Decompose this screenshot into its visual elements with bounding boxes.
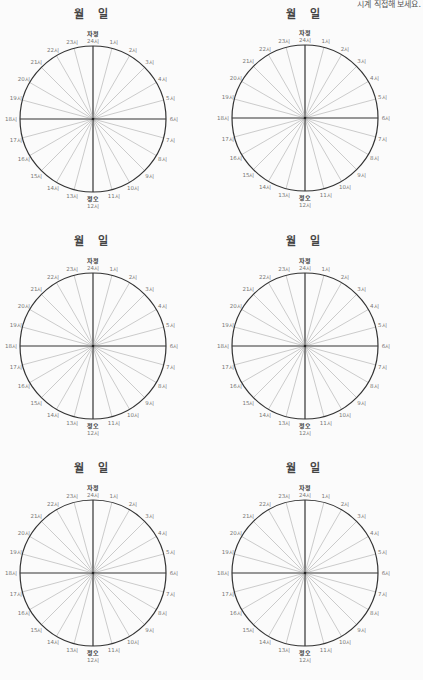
hour-spoke [286,346,305,417]
hour-spoke [242,118,305,155]
hour-label: 19시 [10,549,22,555]
hour-spoke [57,510,94,573]
hour-label: 10시 [339,184,351,190]
hour-label: 15시 [30,173,42,179]
hour-spoke [269,573,306,636]
hour-spoke [286,118,305,189]
hour-label: 10시 [339,639,351,645]
hour-spoke [305,346,376,365]
hour-spoke [305,346,357,398]
hour-spoke [22,346,93,365]
midnight-label: 자정 [299,257,311,265]
hour-label: 17시 [10,364,22,370]
hour-spoke [93,119,112,190]
hour-label: 2시 [129,274,138,280]
hour-label: 2시 [129,501,138,507]
hour-label: 1시 [321,493,330,499]
hour-spoke [269,118,306,181]
midnight-label: 자정 [87,257,99,265]
hour-spoke [93,119,164,138]
hour-spoke [305,573,324,644]
hour-label: 23시 [278,493,290,499]
hour-spoke [305,99,376,118]
hour-spoke [22,327,93,346]
hour-label: 8시 [158,156,167,162]
hour-spoke [93,573,164,592]
clock-dial-3: 월 일 24시1시2시3시4시5시6시7시8시9시10시11시12시13시14시… [0,227,212,453]
hour-spoke [22,554,93,573]
hour-label: 9시 [145,173,154,179]
hour-label: 7시 [166,364,175,370]
center-dot [304,117,307,120]
hour-spoke [93,294,145,346]
hour-spoke [269,55,306,118]
hour-spoke [305,66,357,118]
hour-label: 22시 [259,274,271,280]
hour-spoke [93,573,145,625]
hour-spoke [242,573,305,610]
hour-label: 10시 [339,412,351,418]
hour-spoke [30,573,93,610]
clock-dial-5: 월 일 24시1시2시3시4시5시6시7시8시9시10시11시12시13시14시… [0,454,212,680]
hour-label: 3시 [145,286,154,292]
hour-label: 19시 [222,94,234,100]
hour-label: 5시 [378,322,387,328]
hour-label: 12시 [299,430,311,436]
hour-spoke [30,537,93,574]
hour-label: 16시 [18,383,30,389]
hour-spoke [41,294,93,346]
hour-spoke [305,118,368,155]
hour-spoke [93,346,156,383]
hour-label: 7시 [378,136,387,142]
hour-spoke [30,310,93,347]
hour-spoke [93,346,145,398]
hour-label: 9시 [357,400,366,406]
hour-label: 11시 [320,192,332,198]
hour-spoke [253,294,305,346]
hour-spoke [93,346,112,417]
hour-spoke [30,346,93,383]
hour-spoke [93,554,164,573]
hour-label: 8시 [158,383,167,389]
hour-label: 13시 [278,192,290,198]
hour-label: 18시 [217,343,229,349]
hour-spoke [269,346,306,409]
hour-label: 23시 [66,493,78,499]
hour-spoke [305,573,342,636]
hour-spoke [305,502,324,573]
hour-spoke [93,119,145,171]
hour-label: 24시 [87,265,99,271]
hour-label: 4시 [158,76,167,82]
hour-spoke [74,48,93,119]
hour-spoke [57,56,94,119]
hour-spoke [22,573,93,592]
hour-label: 15시 [30,627,42,633]
midnight-label: 자정 [299,29,311,37]
hour-label: 21시 [242,513,254,519]
hour-label: 17시 [222,364,234,370]
noon-label: 정오 [299,194,311,202]
hour-spoke [93,346,130,409]
hour-label: 23시 [278,266,290,272]
hour-spoke [234,118,305,137]
hour-spoke [242,310,305,347]
hour-label: 3시 [357,513,366,519]
hour-spoke [57,119,94,182]
hour-label: 9시 [357,172,366,178]
hour-spoke [305,118,342,181]
hour-spoke [93,521,145,573]
hour-label: 5시 [166,95,175,101]
hour-spoke [93,573,112,644]
hour-spoke [22,119,93,138]
hour-spoke [41,67,93,119]
center-dot [92,572,95,575]
hour-label: 16시 [230,610,242,616]
hour-label: 6시 [170,116,179,122]
hour-label: 23시 [66,266,78,272]
hour-label: 22시 [47,274,59,280]
hour-label: 20시 [230,75,242,81]
hour-spoke [253,118,305,170]
hour-label: 12시 [299,657,311,663]
hour-label: 11시 [320,647,332,653]
hour-spoke [305,82,368,119]
